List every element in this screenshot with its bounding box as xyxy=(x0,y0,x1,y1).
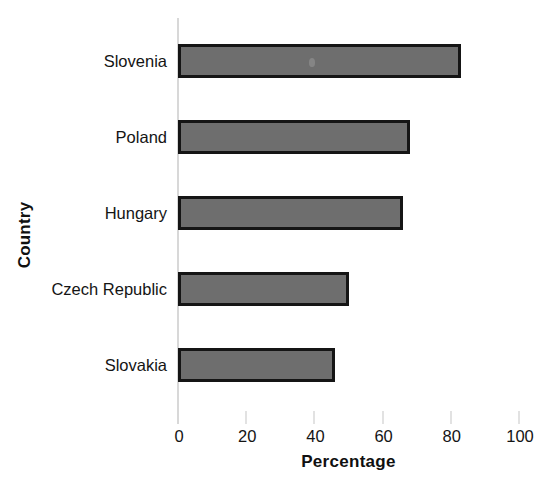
x-tick-100 xyxy=(518,411,520,424)
category-label-czech-republic: Czech Republic xyxy=(51,272,167,306)
bar-chart: Country Slovenia Poland Hungary Czech Re… xyxy=(0,0,559,501)
plot-area: Slovenia Poland Hungary Czech Republic S… xyxy=(178,18,519,410)
x-tick-label-60: 60 xyxy=(359,427,409,446)
y-axis-title-label: Country xyxy=(15,202,35,269)
y-axis-title: Country xyxy=(8,175,42,295)
category-label-slovenia: Slovenia xyxy=(104,44,167,78)
x-tick-label-40: 40 xyxy=(290,427,340,446)
x-tick-label-0: 0 xyxy=(154,427,204,446)
bar-slovakia xyxy=(178,348,335,382)
bar-czech-republic xyxy=(178,272,349,306)
category-label-slovakia: Slovakia xyxy=(105,348,167,382)
x-tick-60 xyxy=(382,411,384,424)
bar-slovenia xyxy=(178,44,461,78)
x-tick-20 xyxy=(245,411,247,424)
bar-hungary xyxy=(178,196,403,230)
scan-artifact-speck xyxy=(309,58,315,67)
x-axis-title: Percentage xyxy=(178,452,519,472)
bar-poland xyxy=(178,120,410,154)
x-tick-label-100: 100 xyxy=(495,427,545,446)
x-tick-label-80: 80 xyxy=(427,427,477,446)
x-tick-0 xyxy=(177,411,179,424)
x-tick-80 xyxy=(450,411,452,424)
category-label-poland: Poland xyxy=(116,120,167,154)
x-tick-40 xyxy=(313,411,315,424)
x-tick-label-20: 20 xyxy=(222,427,272,446)
category-label-hungary: Hungary xyxy=(105,196,167,230)
